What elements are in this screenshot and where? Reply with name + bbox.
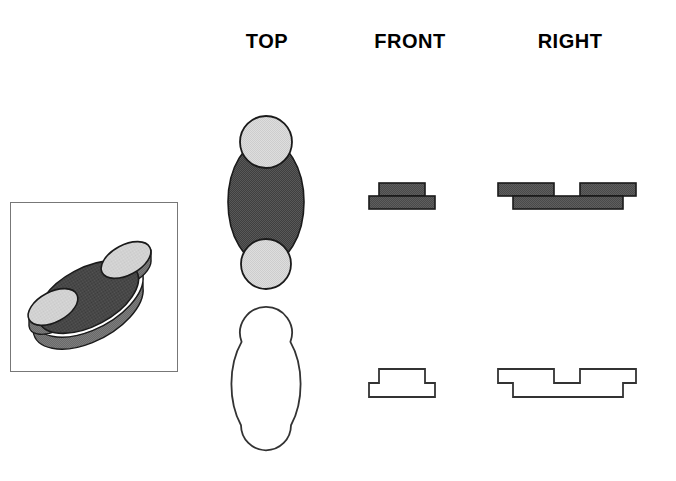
top-view-silhouette	[228, 303, 304, 467]
pictorial-frame	[10, 202, 178, 372]
front-view-stepped-profile	[369, 369, 435, 397]
front-view-boss-block	[379, 183, 425, 196]
front-view-outline	[362, 362, 446, 406]
top-view-shaded-cell	[215, 105, 319, 295]
front-view-base-slab	[369, 196, 435, 209]
column-header-front: FRONT	[345, 30, 475, 53]
right-view-boss-right	[580, 183, 636, 196]
top-view-boss-lower	[241, 239, 291, 289]
column-header-top: TOP	[202, 30, 332, 53]
right-view-boss-left	[498, 183, 554, 196]
front-view-outline-cell	[362, 362, 446, 406]
right-view-shaded	[491, 176, 645, 220]
column-header-right: RIGHT	[500, 30, 640, 53]
front-view-shaded-cell	[362, 176, 446, 220]
top-view-outline-cell	[215, 295, 319, 475]
top-view-outline	[215, 295, 319, 475]
isometric-pictorial-drawing	[11, 203, 176, 370]
right-view-base-slab	[513, 196, 623, 209]
right-view-shaded-cell	[491, 176, 645, 220]
orthographic-projection-worksheet: TOP FRONT RIGHT	[0, 0, 676, 481]
top-view-shaded	[215, 105, 319, 295]
right-view-outline	[491, 362, 645, 406]
right-view-stepped-profile	[498, 369, 636, 397]
front-view-shaded	[362, 176, 446, 220]
right-view-outline-cell	[491, 362, 645, 406]
top-view-boss-upper	[240, 116, 292, 168]
